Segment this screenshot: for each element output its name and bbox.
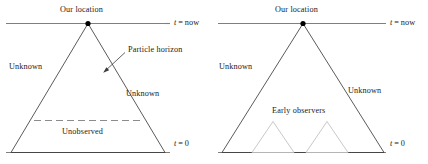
unknown-label-left-panel-right-region: Unknown — [126, 90, 159, 98]
unknown-label-left-panel-left-region: Unknown — [9, 63, 42, 71]
t-now-label-left: t = now — [174, 19, 199, 27]
diagram-canvas — [0, 0, 428, 164]
t-zero-label-left: t = 0 — [174, 140, 189, 148]
figure-container: Our location t = now t = 0 Unknown Unkno… — [0, 0, 428, 164]
unobserved-label: Unobserved — [62, 128, 103, 136]
unknown-label-right-panel-left-region: Unknown — [219, 63, 252, 71]
unknown-label-right-panel-right-region: Unknown — [348, 87, 381, 95]
t-zero-label-right: t = 0 — [390, 140, 405, 148]
our-location-point-left — [85, 21, 90, 26]
early-observers-label: Early observers — [272, 107, 325, 115]
t-now-label-right: t = now — [390, 19, 415, 27]
particle-horizon-label: Particle horizon — [128, 46, 182, 54]
our-location-point-right — [300, 21, 305, 26]
our-location-label-left: Our location — [60, 6, 103, 14]
early-observer-cone-1 — [252, 122, 294, 153]
early-observer-cone-2 — [306, 122, 348, 153]
our-location-label-right: Our location — [275, 6, 318, 14]
